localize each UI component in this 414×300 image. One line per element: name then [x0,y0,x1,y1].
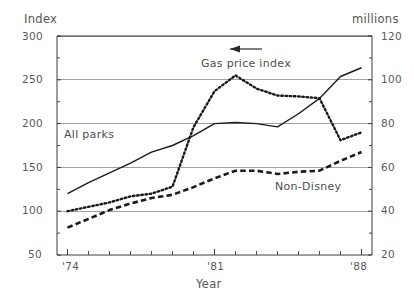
series-line-non-disney [68,152,362,228]
chart-figure: Index millions Year 300 250 200 150 100 … [0,0,414,300]
series-line-all-parks [68,68,362,194]
series-line-gas-price-index [68,75,362,211]
gas-price-index-arrow-head [230,45,240,52]
chart-plot-svg [0,0,414,300]
